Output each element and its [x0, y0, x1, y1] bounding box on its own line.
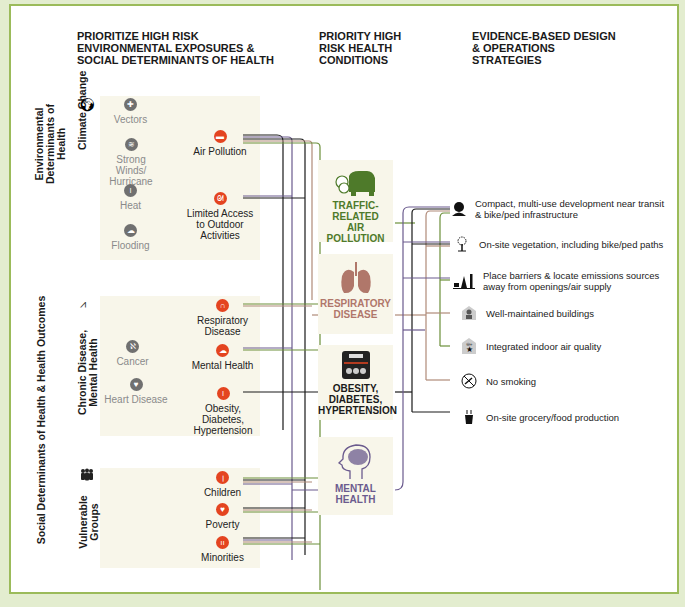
indoor-air-icon: ★⊖+ [460, 338, 478, 354]
condition-mental-health: Mental Health [318, 437, 393, 515]
strategy-grocery: On-site grocery/food production [460, 409, 670, 425]
brain-icon [336, 441, 376, 481]
maintenance-worker-icon [460, 305, 478, 321]
building-map-icon [451, 201, 467, 217]
car-exhaust-icon [331, 166, 381, 198]
condition-traffic-air-pollution: Traffic-Related Air Pollution [318, 160, 393, 242]
condition-respiratory-disease: Respiratory Disease [318, 254, 393, 334]
barrier-tree-icon [453, 273, 475, 289]
strategy-no-smoking: No smoking [460, 373, 660, 389]
strategy-vegetation: On-site vegetation, including bike/ped p… [453, 236, 668, 252]
lungs-icon [338, 260, 374, 296]
tree-icon [453, 236, 471, 252]
scale-icon [340, 349, 372, 381]
strategy-maintained-buildings: Well-maintained buildings [460, 305, 660, 321]
strategy-compact-development: Compact, multi-use development near tran… [451, 198, 666, 220]
condition-obesity: Obesity, Diabetes, Hypertension [318, 345, 393, 420]
no-smoking-icon [460, 373, 478, 389]
plant-pot-icon [460, 409, 478, 425]
strategy-barriers: Place barriers & locate emissions source… [453, 270, 678, 292]
strategy-indoor-air: ★⊖+ Integrated indoor air quality [460, 338, 660, 354]
svg-text:⊖+: ⊖+ [466, 341, 473, 347]
